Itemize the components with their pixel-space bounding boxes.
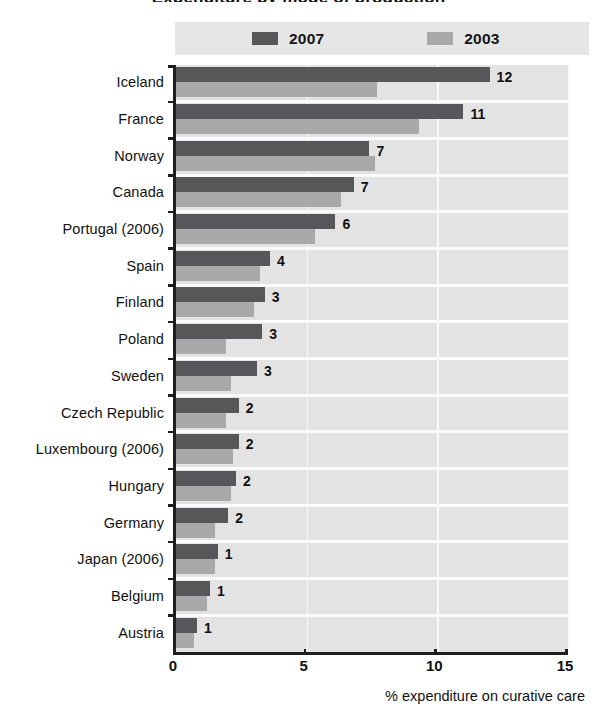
bar-row[interactable]: 1: [176, 579, 568, 616]
bar-2003[interactable]: [176, 376, 231, 391]
bar-2003[interactable]: [176, 486, 231, 501]
bar-value-label: 11: [470, 107, 485, 121]
bar-value-label: 3: [269, 327, 277, 341]
bar-2003[interactable]: [176, 339, 226, 354]
gridline-vertical: [568, 65, 570, 652]
row-separator: [176, 394, 568, 397]
legend-entry-2007[interactable]: 2007: [252, 30, 324, 48]
y-axis-tick: [168, 321, 176, 324]
bar-2007[interactable]: [176, 104, 463, 119]
bar-2007[interactable]: [176, 67, 490, 82]
category-label: Canada: [0, 184, 164, 200]
bar-2003[interactable]: [176, 413, 226, 428]
y-axis-tick: [168, 211, 176, 214]
bar-row[interactable]: 3: [176, 322, 568, 359]
bar-2007[interactable]: [176, 251, 270, 266]
bar-value-label: 3: [264, 364, 272, 378]
bar-2003[interactable]: [176, 119, 419, 134]
bar-2007[interactable]: [176, 141, 369, 156]
bar-row[interactable]: 12: [176, 65, 568, 102]
bar-2007[interactable]: [176, 471, 236, 486]
y-axis-tick: [168, 394, 176, 397]
bar-2003[interactable]: [176, 523, 215, 538]
bar-2007[interactable]: [176, 544, 218, 559]
category-label: Austria: [0, 625, 164, 641]
row-separator: [176, 614, 568, 617]
bar-value-label: 7: [376, 144, 384, 158]
bar-2007[interactable]: [176, 508, 228, 523]
bar-row[interactable]: 3: [176, 359, 568, 396]
bar-2003[interactable]: [176, 266, 260, 281]
x-axis-tick-label: 15: [557, 657, 574, 674]
bar-2007[interactable]: [176, 361, 257, 376]
bar-row[interactable]: 11: [176, 102, 568, 139]
value-axis: 051015: [0, 655, 597, 663]
bar-value-label: 3: [272, 290, 280, 304]
legend-swatch-2007: [252, 32, 278, 45]
bar-2003[interactable]: [176, 633, 194, 648]
bar-2003[interactable]: [176, 302, 254, 317]
y-axis-tick: [168, 614, 176, 617]
y-axis-tick: [168, 174, 176, 177]
category-label: Japan (2006): [0, 551, 164, 567]
bar-row[interactable]: 2: [176, 432, 568, 469]
category-label: Luxembourg (2006): [0, 441, 164, 457]
row-separator: [176, 577, 568, 580]
bar-2007[interactable]: [176, 581, 210, 596]
bar-2003[interactable]: [176, 156, 375, 171]
chart-legend: 2007 2003: [175, 22, 589, 55]
bar-row[interactable]: 1: [176, 615, 568, 652]
category-label: Czech Republic: [0, 405, 164, 421]
bar-value-label: 12: [497, 70, 513, 84]
bar-value-label: 1: [217, 584, 225, 598]
bar-2007[interactable]: [176, 287, 265, 302]
legend-label-2007: 2007: [289, 30, 324, 48]
category-label: Hungary: [0, 478, 164, 494]
x-axis-tick: [304, 649, 307, 655]
row-separator: [176, 430, 568, 433]
bar-row[interactable]: 7: [176, 175, 568, 212]
bar-2003[interactable]: [176, 192, 341, 207]
bar-2003[interactable]: [176, 449, 233, 464]
legend-swatch-2003: [427, 32, 453, 45]
bar-2007[interactable]: [176, 398, 239, 413]
bar-value-label: 2: [235, 511, 243, 525]
category-label: Spain: [0, 258, 164, 274]
y-axis-tick: [168, 284, 176, 287]
bar-2007[interactable]: [176, 214, 335, 229]
row-separator: [176, 210, 568, 213]
row-separator: [176, 357, 568, 360]
bar-row[interactable]: 1: [176, 542, 568, 579]
category-label: Portugal (2006): [0, 221, 164, 237]
bar-value-label: 4: [277, 254, 285, 268]
y-axis-tick: [168, 468, 176, 471]
bar-2007[interactable]: [176, 434, 239, 449]
bar-value-label: 2: [246, 401, 254, 415]
bar-2003[interactable]: [176, 82, 377, 97]
bar-2007[interactable]: [176, 324, 262, 339]
row-separator: [176, 320, 568, 323]
bar-2003[interactable]: [176, 229, 315, 244]
bar-row[interactable]: 7: [176, 138, 568, 175]
bar-value-label: 1: [204, 621, 212, 635]
y-axis-tick: [168, 358, 176, 361]
bar-row[interactable]: 3: [176, 285, 568, 322]
bar-2007[interactable]: [176, 177, 354, 192]
bar-row[interactable]: 2: [176, 505, 568, 542]
bar-row[interactable]: 6: [176, 212, 568, 249]
bar-2003[interactable]: [176, 596, 207, 611]
category-label: Iceland: [0, 74, 164, 90]
category-label: Norway: [0, 148, 164, 164]
bar-row[interactable]: 2: [176, 469, 568, 506]
bar-2003[interactable]: [176, 559, 215, 574]
y-axis-tick: [168, 578, 176, 581]
x-axis-tick-label: 5: [299, 657, 307, 674]
bar-row[interactable]: 2: [176, 395, 568, 432]
row-separator: [176, 174, 568, 177]
plot-area: 121177643332222111: [173, 65, 568, 655]
legend-entry-2003[interactable]: 2003: [427, 30, 499, 48]
category-label: Belgium: [0, 588, 164, 604]
bar-value-label: 1: [225, 547, 233, 561]
bar-row[interactable]: 4: [176, 248, 568, 285]
bar-2007[interactable]: [176, 618, 197, 633]
